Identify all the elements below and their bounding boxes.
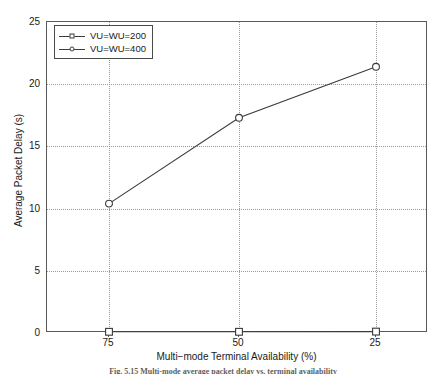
x-tick-label-25: 25 [355, 337, 395, 348]
y-tick-label-25: 25 [14, 16, 40, 27]
y-axis-title: Average Packet Delay (s) [13, 71, 24, 271]
data-point-marker [106, 328, 113, 335]
x-tick-label-75: 75 [88, 337, 128, 348]
data-point-marker [106, 200, 113, 207]
data-point-marker [236, 114, 243, 121]
legend-item-vu-wu-400: VU=WU=400 [59, 42, 146, 55]
data-point-marker [373, 328, 380, 335]
x-tick-label-50: 50 [218, 337, 258, 348]
data-point-marker [373, 63, 380, 70]
legend: VU=WU=200 VU=WU=400 [54, 25, 153, 59]
y-tick-label-0: 0 [14, 327, 40, 338]
x-axis-title: Multi−mode Terminal Availability (%) [46, 351, 427, 362]
legend-marker-square-icon [59, 30, 85, 42]
data-series-layer [47, 22, 428, 333]
legend-marker-circle-icon [59, 43, 85, 55]
figure-container: 25 20 15 10 5 0 75 50 25 Average Packet … [0, 0, 446, 374]
data-point-marker [236, 328, 243, 335]
plot-area [46, 21, 427, 332]
legend-item-vu-wu-200: VU=WU=200 [59, 29, 146, 42]
legend-label: VU=WU=400 [90, 43, 146, 54]
figure-caption: Fig. 5.15 Multi-mode average packet dela… [0, 366, 446, 374]
legend-label: VU=WU=200 [90, 30, 146, 41]
series-line-vu-wu-400 [109, 67, 376, 204]
